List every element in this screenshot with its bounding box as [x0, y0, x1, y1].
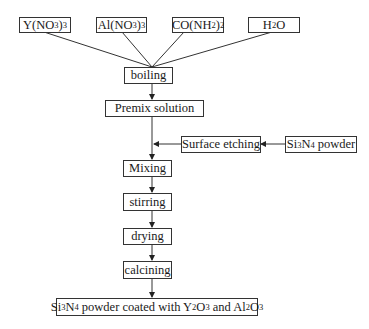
step-mixing: Mixing — [123, 160, 172, 177]
step-premix-solution: Premix solution — [105, 100, 204, 117]
input-box-al-nitrate: Al(NO3)3 — [96, 17, 147, 33]
step-label: calcining — [125, 264, 171, 277]
label-text: and Al — [210, 301, 246, 314]
connector-lines — [0, 0, 369, 329]
step-calcining: calcining — [123, 261, 172, 279]
input-box-y-nitrate: Y(NO3)3 — [19, 17, 71, 33]
label-text: powder coated with Y — [79, 301, 192, 314]
step-label: stirring — [129, 196, 165, 209]
input-box-water: H2O — [248, 17, 300, 33]
label-text: O — [250, 301, 259, 314]
label-text: O — [196, 301, 205, 314]
input-box-si3n4-powder: Si3N4 powder — [285, 136, 357, 153]
step-surface-etching: Surface etching — [181, 136, 261, 153]
output-box-coated-powder: Si3N4 powder coated with Y2O3 and Al2O3 — [56, 298, 258, 316]
label-text: Y(NO — [23, 19, 54, 32]
step-label: boiling — [131, 69, 166, 82]
input-box-urea: CO(NH2)2 — [172, 17, 224, 33]
label-text: N — [65, 301, 74, 314]
step-boiling: boiling — [124, 67, 173, 84]
label-text: Si — [287, 138, 297, 151]
step-label: Mixing — [129, 162, 166, 175]
step-label: Premix solution — [115, 102, 195, 115]
label-text: H — [263, 19, 272, 32]
label-text: Si — [51, 301, 61, 314]
label-text: O — [276, 19, 285, 32]
label-text: CO(NH — [172, 19, 212, 32]
label-text: N — [301, 138, 310, 151]
step-stirring: stirring — [123, 193, 172, 211]
label-text: Al(NO — [98, 19, 133, 32]
step-drying: drying — [123, 228, 172, 245]
step-label: drying — [131, 230, 164, 243]
label-text: powder — [315, 138, 356, 151]
step-label: Surface etching — [182, 138, 260, 151]
